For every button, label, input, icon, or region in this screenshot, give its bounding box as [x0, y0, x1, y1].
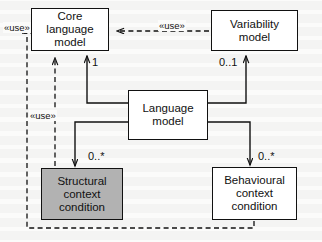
multiplicity-structural: 0..* [88, 150, 105, 162]
class-box-variability-model[interactable]: Variability model [211, 10, 298, 51]
class-box-behavioural-context-condition[interactable]: Behavioural context condition [212, 167, 297, 220]
class-box-structural-context-condition[interactable]: Structural context condition [41, 168, 123, 220]
stereotype-use-top-right: «use» [158, 20, 186, 31]
class-label-variability-model: Variability model [228, 18, 281, 44]
multiplicity-core-language: 1 [92, 56, 98, 68]
class-label-language-model: Language model [140, 102, 195, 128]
class-label-structural-context-condition: Structural context condition [55, 175, 108, 214]
multiplicity-behavioural: 0..* [258, 150, 275, 162]
stereotype-use-left-top: «use» [3, 22, 31, 33]
stereotype-use-left-mid: «use» [29, 110, 57, 121]
multiplicity-variability: 0..1 [219, 56, 237, 68]
class-box-core-language-model[interactable]: Core language model [31, 8, 109, 51]
class-box-language-model[interactable]: Language model [128, 90, 208, 140]
class-label-core-language-model: Core language model [32, 10, 108, 49]
uml-diagram-canvas: Core language model Variability model La… [0, 0, 322, 242]
class-label-behavioural-context-condition: Behavioural context condition [222, 174, 287, 213]
